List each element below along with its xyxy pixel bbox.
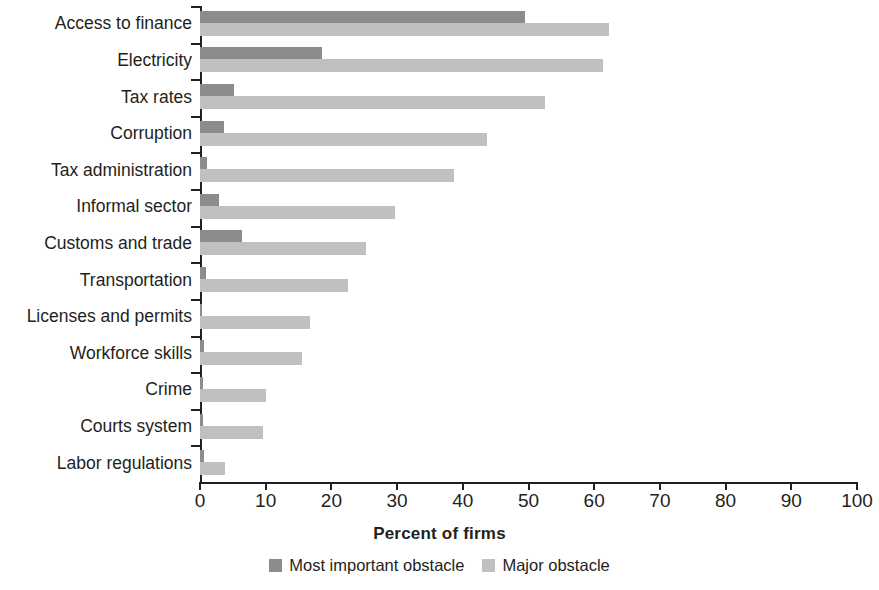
bar-most-important-obstacle — [200, 377, 203, 389]
x-axis-tick — [330, 482, 332, 490]
y-axis-label: Corruption — [4, 125, 192, 143]
legend-swatch-most — [269, 559, 282, 572]
category-row: Transportation — [200, 262, 857, 299]
y-axis-tick — [191, 299, 200, 301]
bar-most-important-obstacle — [200, 157, 207, 169]
bar-most-important-obstacle — [200, 450, 204, 462]
y-axis-label: Crime — [4, 381, 192, 399]
y-axis-tick — [191, 116, 200, 118]
x-axis-tick-label: 70 — [649, 491, 670, 510]
x-axis-title: Percent of firms — [0, 524, 879, 544]
y-axis-tick — [191, 152, 200, 154]
y-axis-tick — [191, 409, 200, 411]
y-axis-label: Courts system — [4, 418, 192, 436]
x-axis-tick-label: 100 — [841, 491, 873, 510]
bar-most-important-obstacle — [200, 267, 206, 279]
category-row: Tax administration — [200, 152, 857, 189]
y-axis-tick — [191, 336, 200, 338]
bar-major-obstacle — [200, 279, 348, 292]
legend-item: Most important obstacle — [269, 556, 464, 575]
y-axis-label: Workforce skills — [4, 345, 192, 363]
bar-major-obstacle — [200, 133, 487, 146]
bar-most-important-obstacle — [200, 304, 202, 316]
bar-major-obstacle — [200, 352, 302, 365]
x-axis-tick — [725, 482, 727, 490]
category-row: Access to finance — [200, 6, 857, 43]
category-row: Corruption — [200, 116, 857, 153]
y-axis-tick — [191, 79, 200, 81]
category-row: Workforce skills — [200, 336, 857, 373]
bar-major-obstacle — [200, 59, 603, 72]
bar-most-important-obstacle — [200, 194, 219, 206]
bar-most-important-obstacle — [200, 84, 234, 96]
y-axis-tick — [191, 372, 200, 374]
x-axis-tick-label: 30 — [387, 491, 408, 510]
y-axis-tick — [191, 262, 200, 264]
x-axis-tick — [199, 482, 201, 490]
bar-most-important-obstacle — [200, 47, 322, 59]
bar-major-obstacle — [200, 242, 366, 255]
x-axis-tick-label: 10 — [255, 491, 276, 510]
bar-major-obstacle — [200, 316, 310, 329]
y-axis-label: Tax rates — [4, 89, 192, 107]
x-axis: 0102030405060708090100 — [200, 482, 858, 522]
legend-label: Major obstacle — [502, 556, 609, 575]
y-axis-tick — [191, 445, 200, 447]
category-row: Labor regulations — [200, 445, 857, 482]
legend-swatch-major — [482, 559, 495, 572]
y-axis-label: Electricity — [4, 52, 192, 70]
bar-chart: Access to financeElectricityTax ratesCor… — [0, 0, 879, 590]
bar-major-obstacle — [200, 462, 225, 475]
category-row: Crime — [200, 372, 857, 409]
bar-most-important-obstacle — [200, 340, 204, 352]
x-axis-tick-label: 60 — [584, 491, 605, 510]
x-axis-tick-label: 40 — [452, 491, 473, 510]
category-row: Licenses and permits — [200, 299, 857, 336]
category-row: Customs and trade — [200, 226, 857, 263]
bar-major-obstacle — [200, 169, 454, 182]
y-axis-tick — [191, 43, 200, 45]
y-axis-tick — [191, 226, 200, 228]
bar-major-obstacle — [200, 23, 609, 36]
x-axis-tick-label: 50 — [518, 491, 539, 510]
bar-most-important-obstacle — [200, 121, 224, 133]
bar-most-important-obstacle — [200, 11, 525, 23]
x-axis-tick — [593, 482, 595, 490]
bar-major-obstacle — [200, 426, 263, 439]
x-axis-tick — [396, 482, 398, 490]
x-axis-tick — [265, 482, 267, 490]
bar-major-obstacle — [200, 206, 395, 219]
bar-most-important-obstacle — [200, 230, 242, 242]
category-row: Electricity — [200, 43, 857, 80]
x-axis-tick — [790, 482, 792, 490]
bar-major-obstacle — [200, 389, 266, 402]
legend-item: Major obstacle — [482, 556, 609, 575]
y-axis-tick — [191, 189, 200, 191]
chart-legend: Most important obstacleMajor obstacle — [0, 556, 879, 575]
bar-most-important-obstacle — [200, 414, 203, 426]
y-axis-label: Licenses and permits — [4, 308, 192, 326]
x-axis-tick-label: 90 — [781, 491, 802, 510]
x-axis-tick-label: 20 — [321, 491, 342, 510]
y-axis-label: Transportation — [4, 272, 192, 290]
x-axis-tick — [856, 482, 858, 490]
y-axis-label: Tax administration — [4, 162, 192, 180]
y-axis-tick — [191, 6, 200, 8]
y-axis-label: Informal sector — [4, 198, 192, 216]
plot-area: Access to financeElectricityTax ratesCor… — [200, 6, 857, 482]
x-axis-tick-label: 0 — [195, 491, 206, 510]
x-axis-tick-label: 80 — [715, 491, 736, 510]
legend-label: Most important obstacle — [289, 556, 464, 575]
x-axis-tick — [462, 482, 464, 490]
bar-major-obstacle — [200, 96, 545, 109]
category-row: Informal sector — [200, 189, 857, 226]
y-axis-label: Access to finance — [4, 15, 192, 33]
category-row: Tax rates — [200, 79, 857, 116]
category-row: Courts system — [200, 409, 857, 446]
y-axis-label: Labor regulations — [4, 455, 192, 473]
x-axis-tick — [659, 482, 661, 490]
x-axis-tick — [528, 482, 530, 490]
y-axis-label: Customs and trade — [4, 235, 192, 253]
